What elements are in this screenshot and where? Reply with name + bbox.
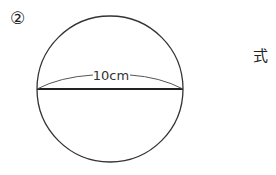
dimension-arc-left	[37, 75, 93, 89]
diameter-label: 10cm	[93, 68, 129, 83]
circle-figure: 10cm	[0, 0, 276, 175]
dimension-arc-right	[130, 75, 183, 89]
